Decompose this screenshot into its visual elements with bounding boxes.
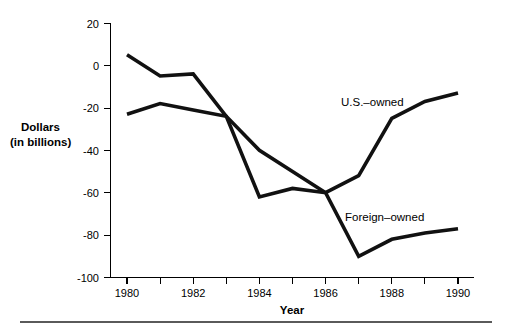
y-tick-label-1: 0 bbox=[93, 60, 99, 72]
series-label-us-owned: U.S.–owned bbox=[341, 96, 404, 108]
y-tick-label-5: -80 bbox=[83, 229, 99, 241]
series-label-foreign-owned: Foreign–owned bbox=[345, 211, 424, 223]
x-tick-label-1984: 1984 bbox=[247, 287, 271, 299]
y-axis-ticks bbox=[104, 24, 111, 278]
x-axis-ticks bbox=[127, 278, 458, 285]
y-axis-title-line2: (in billions) bbox=[10, 136, 71, 148]
line-chart: 20 0 -20 -40 -60 -80 -100 1980 1982 1984… bbox=[0, 0, 511, 327]
series-line-us-owned bbox=[127, 55, 458, 197]
y-tick-label-3: -40 bbox=[83, 145, 99, 157]
y-tick-label-2: -20 bbox=[83, 102, 99, 114]
x-axis-title: Year bbox=[280, 304, 305, 316]
y-tick-label-0: 20 bbox=[87, 18, 99, 30]
y-tick-label-4: -60 bbox=[83, 187, 99, 199]
chart-figure: 20 0 -20 -40 -60 -80 -100 1980 1982 1984… bbox=[0, 0, 511, 327]
series-line-foreign-owned bbox=[127, 104, 458, 257]
x-tick-label-1990: 1990 bbox=[446, 287, 470, 299]
x-tick-label-1980: 1980 bbox=[115, 287, 139, 299]
x-tick-label-1986: 1986 bbox=[313, 287, 337, 299]
x-tick-label-1982: 1982 bbox=[181, 287, 205, 299]
x-tick-label-1988: 1988 bbox=[380, 287, 404, 299]
y-tick-label-6: -100 bbox=[77, 272, 99, 284]
y-axis-title-line1: Dollars bbox=[21, 121, 60, 133]
